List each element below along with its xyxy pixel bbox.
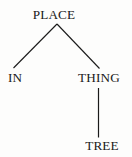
tree-node-tree: TREE: [85, 139, 119, 152]
edge-place-to-thing: [57, 24, 100, 69]
tree-node-in: IN: [8, 71, 22, 84]
syntax-tree-figure: PLACE IN THING TREE: [0, 0, 132, 157]
tree-node-place: PLACE: [33, 8, 76, 21]
edge-place-to-in: [14, 24, 58, 68]
tree-node-thing: THING: [78, 71, 120, 84]
